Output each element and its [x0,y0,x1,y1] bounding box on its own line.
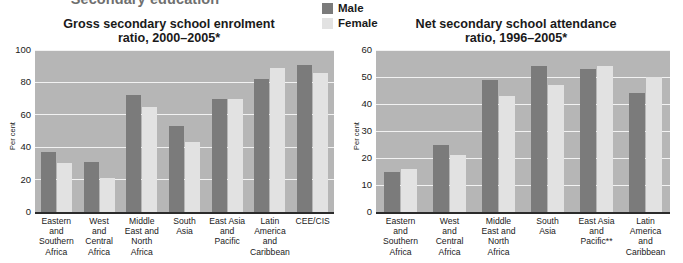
bar-female [597,66,613,212]
bar-male [41,152,56,212]
bar-female [142,107,157,212]
gridline [35,114,334,115]
bar-male [531,66,547,212]
bar-male [212,99,227,212]
y-axis-tick-label: 0 [352,207,372,216]
bar-female [450,155,466,212]
bar-female [646,77,662,212]
bar-male [433,145,449,213]
x-axis-line-left [35,212,334,214]
bar-male [84,162,99,212]
bar-female [499,96,515,212]
plot-area-right [376,50,670,212]
bar-female [57,163,72,212]
bar-male [126,95,141,212]
x-axis-category-label: Latin America and Caribbean [617,216,674,257]
bar-male [297,65,312,212]
bar-female [270,68,285,212]
gridline [376,131,670,132]
y-axis-tick-label: 60 [352,45,372,54]
bar-male [482,80,498,212]
bar-male [169,126,184,212]
gridline [376,77,670,78]
bar-male [254,79,269,212]
bar-male [629,93,645,212]
y-axis-tick-label: 50 [352,72,372,81]
y-axis-tick-label: 20 [9,175,31,184]
bar-female [100,178,115,212]
y-axis-tick-label: 20 [352,153,372,162]
gridline [376,158,670,159]
gridline [376,104,670,105]
bar-male [384,172,400,213]
gridline [35,50,334,51]
bar-female [401,169,417,212]
bar-male [580,69,596,212]
y-axis-tick-label: 30 [352,126,372,135]
x-axis-category-label: CEE/CIS [287,216,338,226]
bar-female [185,142,200,212]
x-axis-line-right [376,212,670,214]
bar-female [548,85,564,212]
y-axis-tick-label: 0 [9,207,31,216]
y-axis-tick-label: 40 [9,142,31,151]
y-axis-tick-label: 10 [352,180,372,189]
bar-female [228,99,243,212]
gridline [35,82,334,83]
chart-title-right: Net secondary school attendance ratio, 1… [341,18,665,45]
bar-female [313,73,328,212]
y-axis-tick-label: 80 [9,77,31,86]
y-axis-tick-label: 40 [352,99,372,108]
y-axis-tick-label: 60 [9,110,31,119]
chart-title-left: Gross secondary school enrolment ratio, … [0,18,320,45]
gridline [376,50,670,51]
y-axis-tick-label: 100 [9,45,31,54]
gridline [376,185,670,186]
plot-area-left [35,50,334,212]
